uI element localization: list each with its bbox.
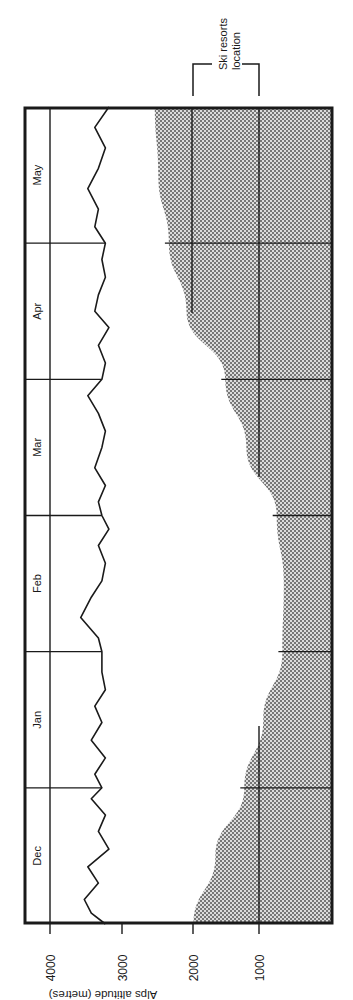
month-label-feb: Feb — [31, 574, 43, 593]
tick-label-1000: 1000 — [253, 954, 267, 981]
annotation-label-line1: Ski resorts — [217, 18, 229, 70]
annotation-label-line2: location — [230, 32, 242, 70]
month-label-may: May — [31, 164, 43, 185]
y-axis: 4000 3000 2000 1000 Alps altitude (metre… — [44, 924, 267, 1000]
y-axis-title: Alps altitude (metres) — [49, 989, 158, 1000]
tick-label-4000: 4000 — [44, 954, 58, 981]
month-label-mar: Mar — [31, 438, 43, 457]
month-label-jan: Jan — [31, 711, 43, 729]
snow-altitude-chart: DecJanFebMarAprMay 4000 3000 2000 1000 A… — [0, 0, 353, 1000]
month-label-dec: Dec — [31, 846, 43, 866]
month-label-apr: Apr — [31, 302, 43, 319]
tick-label-3000: 3000 — [116, 954, 130, 981]
tick-label-2000: 2000 — [187, 954, 201, 981]
ski-resorts-annotation: Ski resorts location — [193, 18, 259, 96]
